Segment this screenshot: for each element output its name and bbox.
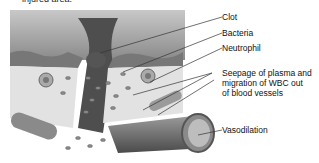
label-seepage-line3: of blood vessels	[222, 88, 312, 98]
label-seepage-line2: migration of WBC out	[222, 78, 312, 88]
label-seepage: Seepage of plasma and migration of WBC o…	[222, 68, 312, 98]
label-clot: Clot	[222, 12, 237, 22]
label-neutrophil: Neutrophil	[222, 43, 261, 53]
label-bacteria: Bacteria	[222, 28, 253, 38]
label-vasodilation: Vasodilation	[222, 125, 268, 135]
label-seepage-line1: Seepage of plasma and	[222, 68, 312, 78]
